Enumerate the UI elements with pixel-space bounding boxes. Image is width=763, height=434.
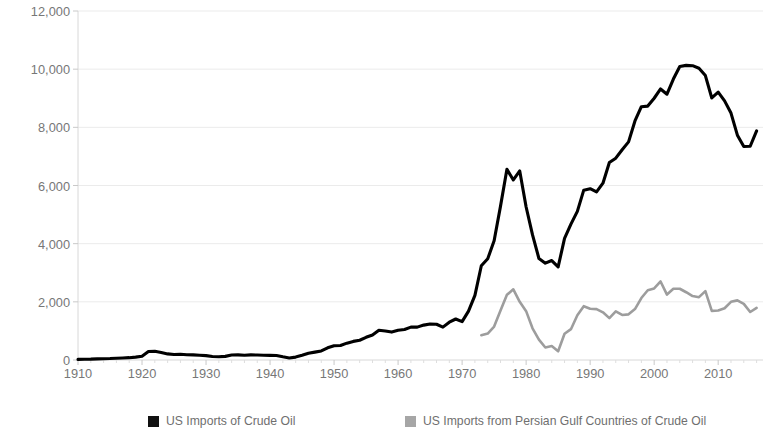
plot-area <box>0 0 763 400</box>
series-line-persian-gulf <box>481 281 756 351</box>
series-line-us-imports <box>78 65 757 359</box>
legend-swatch-gray <box>405 416 416 427</box>
legend-item-us-imports-crude-oil[interactable]: US Imports of Crude Oil <box>148 414 295 428</box>
chart-legend: US Imports of Crude Oil US Imports from … <box>0 408 763 434</box>
legend-label: US Imports from Persian Gulf Countries o… <box>423 414 706 428</box>
legend-item-persian-gulf-imports[interactable]: US Imports from Persian Gulf Countries o… <box>405 414 706 428</box>
legend-swatch-black <box>148 416 159 427</box>
legend-label: US Imports of Crude Oil <box>166 414 295 428</box>
chart-container: Thousand Barrels per Day (Mbbl/d) 12,000… <box>0 0 763 434</box>
